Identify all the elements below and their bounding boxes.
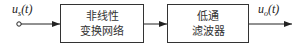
block-label-line1: 非线性 <box>86 9 119 24</box>
lowpass-filter-block: 低通 滤波器 <box>167 4 249 43</box>
input-terminal-icon <box>17 22 21 26</box>
input-signal-label: us(t) <box>12 2 32 18</box>
block-label-line2: 变换网络 <box>80 24 124 39</box>
block-label-line2: 滤波器 <box>192 24 225 39</box>
nonlinear-transform-block: 非线性 变换网络 <box>60 4 144 43</box>
connector-lines <box>0 0 297 45</box>
block-label-line1: 低通 <box>197 9 219 24</box>
output-signal-label: uo(t) <box>258 2 279 18</box>
